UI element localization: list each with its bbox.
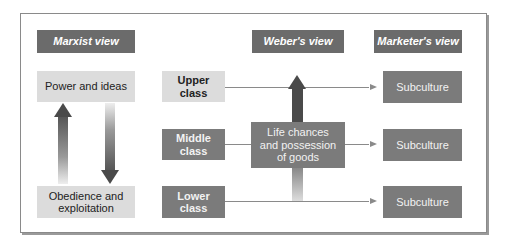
power-and-ideas-label: Power and ideas	[45, 80, 127, 93]
upper-arrowhead-icon	[370, 84, 377, 90]
down-arrow-icon	[101, 170, 119, 184]
obedience-label-line2: exploitation	[58, 202, 114, 215]
weber-up-arrow-icon	[288, 75, 306, 89]
obedience-exploitation-box: Obedience and exploitation	[37, 186, 135, 218]
middle-class-line2: class	[180, 145, 208, 158]
middle-connector-left	[225, 144, 251, 145]
lower-class-line1: Lower	[177, 190, 209, 203]
upper-class-line2: class	[180, 87, 208, 100]
subculture-label: Subculture	[396, 81, 449, 94]
power-and-ideas-box: Power and ideas	[37, 71, 135, 102]
middle-class-line1: Middle	[176, 132, 211, 145]
down-arrow-shaft	[105, 103, 115, 171]
life-chances-line3: of goods	[277, 151, 319, 164]
life-chances-line2: and possession	[260, 139, 336, 152]
upper-class-line1: Upper	[178, 74, 210, 87]
header-webers-view: Weber's view	[252, 30, 344, 53]
weber-arrow-shaft-top	[292, 88, 303, 122]
subculture-box-middle: Subculture	[383, 129, 462, 161]
up-arrow-icon	[54, 103, 72, 117]
upper-class-box: Upper class	[162, 71, 225, 102]
life-chances-line1: Life chances	[267, 126, 329, 139]
middle-connector-right	[345, 144, 369, 145]
obedience-label-line1: Obedience and	[49, 190, 124, 203]
middle-arrowhead-icon	[370, 141, 377, 147]
up-arrow-shaft	[58, 116, 68, 184]
lower-class-line2: class	[180, 202, 208, 215]
header-marketers-view: Marketer's view	[374, 30, 462, 53]
lower-arrowhead-icon	[370, 198, 377, 204]
life-chances-box: Life chances and possession of goods	[251, 122, 345, 168]
subculture-box-lower: Subculture	[383, 186, 462, 218]
header-marxist-view: Marxist view	[37, 30, 135, 53]
lower-connector	[225, 201, 369, 202]
middle-class-box: Middle class	[162, 129, 225, 160]
subculture-label: Subculture	[396, 196, 449, 209]
weber-arrow-shaft-bottom	[292, 168, 303, 201]
subculture-box-upper: Subculture	[383, 71, 462, 103]
subculture-label: Subculture	[396, 139, 449, 152]
lower-class-box: Lower class	[162, 186, 225, 218]
